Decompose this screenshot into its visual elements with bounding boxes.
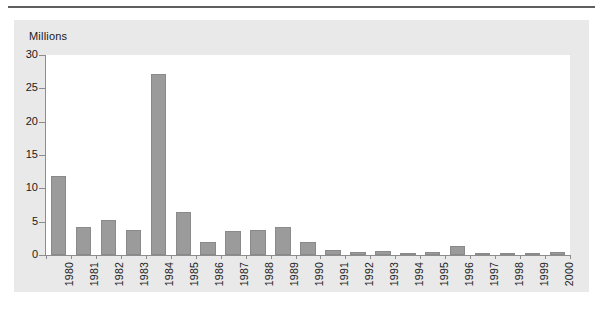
x-axis-spine xyxy=(45,255,570,256)
x-tick-label: 1995 xyxy=(438,262,450,286)
x-tick-mark xyxy=(96,255,97,259)
x-tick-label: 1993 xyxy=(388,262,400,286)
bar xyxy=(325,250,340,255)
y-tick-label: 0 xyxy=(8,248,38,260)
x-tick-label: 1992 xyxy=(363,262,375,286)
x-tick-mark xyxy=(121,255,122,259)
bar-series xyxy=(46,55,570,255)
bar xyxy=(425,252,440,255)
bar xyxy=(550,252,565,255)
bar xyxy=(76,227,91,255)
bar xyxy=(101,220,116,255)
x-tick-mark xyxy=(221,255,222,259)
bar xyxy=(176,212,191,255)
x-tick-mark xyxy=(570,255,571,259)
x-tick-label: 2000 xyxy=(563,262,575,286)
bar xyxy=(275,227,290,255)
y-tick-label: 20 xyxy=(8,115,38,127)
x-tick-mark xyxy=(320,255,321,259)
x-tick-label: 1981 xyxy=(88,262,100,286)
bar xyxy=(200,242,215,255)
x-tick-label: 1989 xyxy=(288,262,300,286)
x-tick-label: 1987 xyxy=(238,262,250,286)
y-tick-label: 10 xyxy=(8,181,38,193)
y-axis-unit-label: Millions xyxy=(29,30,67,42)
y-tick-mark xyxy=(39,88,45,89)
x-tick-mark xyxy=(370,255,371,259)
x-tick-mark xyxy=(171,255,172,259)
x-tick-mark xyxy=(420,255,421,259)
bar xyxy=(375,251,390,255)
top-divider-rule xyxy=(8,6,595,8)
bar xyxy=(350,252,365,255)
x-tick-mark xyxy=(495,255,496,259)
x-tick-mark xyxy=(395,255,396,259)
x-tick-mark xyxy=(470,255,471,259)
x-tick-label: 1990 xyxy=(313,262,325,286)
bar xyxy=(450,246,465,255)
y-tick-mark xyxy=(39,122,45,123)
x-tick-label: 1999 xyxy=(538,262,550,286)
x-tick-mark xyxy=(71,255,72,259)
y-tick-mark xyxy=(39,222,45,223)
y-tick-label: 15 xyxy=(8,148,38,160)
x-tick-mark xyxy=(46,255,47,259)
x-tick-mark xyxy=(345,255,346,259)
bar xyxy=(400,253,415,255)
bar xyxy=(225,231,240,255)
bar xyxy=(51,176,66,255)
bar xyxy=(525,253,540,255)
x-tick-mark xyxy=(271,255,272,259)
y-tick-label: 5 xyxy=(8,215,38,227)
x-tick-label: 1984 xyxy=(163,262,175,286)
x-tick-label: 1997 xyxy=(488,262,500,286)
x-tick-mark xyxy=(246,255,247,259)
y-tick-mark xyxy=(39,155,45,156)
y-tick-mark xyxy=(39,188,45,189)
x-tick-label: 1991 xyxy=(338,262,350,286)
x-tick-label: 1983 xyxy=(138,262,150,286)
x-tick-label: 1982 xyxy=(113,262,125,286)
bar xyxy=(250,230,265,255)
bar xyxy=(151,74,166,255)
figure-container: Millions 051015202530 198019811982198319… xyxy=(0,0,603,311)
x-tick-mark xyxy=(445,255,446,259)
x-tick-mark xyxy=(545,255,546,259)
x-tick-mark xyxy=(146,255,147,259)
x-tick-label: 1986 xyxy=(213,262,225,286)
x-tick-label: 1985 xyxy=(188,262,200,286)
y-tick-label: 30 xyxy=(8,48,38,60)
y-tick-mark xyxy=(39,55,45,56)
bar xyxy=(126,230,141,255)
y-tick-label: 25 xyxy=(8,81,38,93)
x-tick-label: 1994 xyxy=(413,262,425,286)
x-tick-label: 1998 xyxy=(513,262,525,286)
x-tick-label: 1988 xyxy=(263,262,275,286)
y-tick-mark xyxy=(39,255,45,256)
x-tick-mark xyxy=(520,255,521,259)
bar xyxy=(475,253,490,255)
x-tick-mark xyxy=(196,255,197,259)
bar xyxy=(300,242,315,255)
x-tick-label: 1980 xyxy=(63,262,75,286)
x-tick-label: 1996 xyxy=(463,262,475,286)
x-tick-mark xyxy=(296,255,297,259)
bar xyxy=(500,253,515,255)
